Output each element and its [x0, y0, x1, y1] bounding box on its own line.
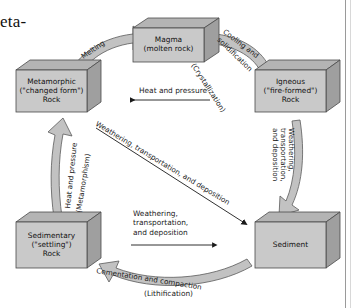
metamorphic-label-line1: Metamorphic [16, 77, 87, 86]
sedimentary-label-line1: Sedimentary [16, 231, 87, 240]
rock-cycle-figure: Magma (molten rock) Metamorphic ("change… [0, 0, 352, 308]
center-weathering-line3: and deposition [133, 228, 188, 237]
center-weathering-line2: transportation, [133, 218, 188, 227]
page-vertical-rule-secondary [350, 0, 351, 308]
igneous-label-line3: Rock [255, 95, 326, 104]
sediment-box-label: Sediment [255, 240, 326, 249]
metamorphic-label-line2: ("changed form") [16, 86, 87, 95]
magma-label-line1: Magma [133, 35, 204, 44]
igneous-box-label: Igneous ("fire-formed") Rock [255, 77, 326, 104]
heat-pressure-top-label: Heat and pressure [139, 87, 207, 95]
arrow-diagonal-weathering [96, 128, 243, 222]
lithification-label: (Lithification) [144, 290, 193, 298]
center-weathering-label: Weathering, transportation, and depositi… [133, 209, 188, 237]
igneous-label-line2: ("fire-formed") [255, 86, 326, 95]
sedimentary-label-line2: ("settling") [16, 240, 87, 249]
metamorphic-box-label: Metamorphic ("changed form") Rock [16, 77, 87, 104]
weathering-right-label-line1: Weathering, [287, 128, 295, 172]
page-vertical-rule [345, 0, 346, 308]
sedimentary-label-line3: Rock [16, 249, 87, 258]
sedimentary-box-label: Sedimentary ("settling") Rock [16, 231, 87, 258]
metamorphic-label-line3: Rock [16, 95, 87, 104]
igneous-label-line1: Igneous [255, 77, 326, 86]
magma-label-line2: (molten rock) [133, 44, 204, 53]
center-weathering-line1: Weathering, [133, 209, 188, 218]
sediment-label-line1: Sediment [255, 240, 326, 249]
magma-box-label: Magma (molten rock) [133, 35, 204, 53]
weathering-right-label-line2: transportation, [279, 128, 287, 182]
weathering-right-label-line3: and deposition [271, 128, 279, 181]
page-text-fragment: eta- [0, 12, 26, 32]
